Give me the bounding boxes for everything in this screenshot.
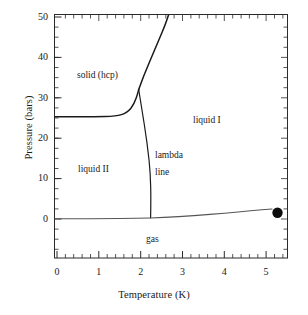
phase-diagram-figure: 50 40 30 20 10 0 0 1 2 3 4 5 Temperature… — [0, 0, 308, 315]
x-tick-label-2: 2 — [129, 266, 153, 277]
lambda-line — [139, 90, 151, 218]
x-tick-label-0: 0 — [45, 266, 69, 277]
region-label-solid-hcp: solid (hcp) — [77, 70, 118, 80]
region-label-line: line — [155, 167, 169, 177]
right-axis-minor-ticks — [281, 27, 288, 249]
region-label-lambda: lambda — [155, 150, 183, 160]
x-tick-label-3: 3 — [171, 266, 195, 277]
plot-frame — [55, 15, 288, 259]
y-tick-label-50: 50 — [22, 11, 48, 22]
region-label-liquid-II: liquid II — [78, 164, 109, 174]
melting-curve — [55, 90, 139, 117]
x-axis-minor-ticks — [65, 254, 283, 258]
vapor-pressure-curve — [55, 209, 272, 219]
critical-point-marker — [272, 208, 282, 218]
region-label-liquid-I: liquid I — [193, 115, 221, 125]
region-label-gas: gas — [146, 234, 159, 244]
x-tick-label-4: 4 — [212, 266, 236, 277]
x-tick-label-5: 5 — [254, 266, 278, 277]
x-axis-major-ticks — [57, 251, 266, 258]
top-axis-minor-ticks — [65, 15, 283, 22]
solid-liquid-boundary — [139, 15, 169, 90]
y-axis-title: Pressure (bars) — [23, 38, 34, 218]
x-tick-label-1: 1 — [87, 266, 111, 277]
x-axis-title: Temperature (K) — [0, 289, 308, 300]
